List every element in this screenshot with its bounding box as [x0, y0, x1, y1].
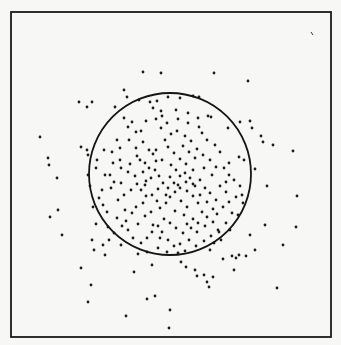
data-point — [239, 121, 242, 124]
data-point — [241, 194, 244, 197]
data-point — [140, 242, 143, 245]
data-point — [157, 225, 160, 228]
data-point — [210, 235, 213, 238]
data-point — [112, 162, 115, 165]
data-point — [206, 216, 209, 219]
data-point — [152, 153, 155, 156]
data-point — [101, 189, 104, 192]
data-point — [222, 206, 225, 209]
data-point — [192, 169, 195, 172]
data-point — [195, 245, 198, 248]
data-point — [251, 127, 254, 130]
data-point — [203, 274, 206, 277]
data-point — [179, 243, 182, 246]
stray-mark — [311, 32, 313, 35]
data-point — [216, 213, 219, 216]
data-point — [194, 157, 197, 160]
data-point — [156, 100, 159, 103]
data-point — [166, 251, 169, 254]
data-point — [159, 237, 162, 240]
data-point — [228, 174, 231, 177]
data-point — [149, 101, 152, 104]
data-point — [102, 244, 105, 247]
data-point — [57, 209, 60, 212]
data-point — [228, 201, 231, 204]
data-point — [186, 206, 189, 209]
data-point — [90, 284, 93, 287]
data-point — [61, 234, 64, 237]
data-point — [92, 206, 95, 209]
data-point — [196, 148, 199, 151]
data-point — [225, 222, 228, 225]
data-point — [238, 254, 241, 257]
data-point — [116, 139, 119, 142]
data-point — [127, 229, 130, 232]
data-point — [157, 247, 160, 250]
data-point — [145, 120, 148, 123]
data-point — [167, 96, 170, 99]
data-point — [188, 239, 191, 242]
data-point — [225, 181, 228, 184]
data-point — [174, 191, 177, 194]
data-point — [145, 180, 148, 183]
data-point — [157, 188, 160, 191]
data-point — [142, 202, 145, 205]
data-point — [144, 162, 147, 165]
data-point — [264, 224, 267, 227]
data-point — [207, 115, 210, 118]
data-point — [214, 144, 217, 147]
data-point — [140, 189, 143, 192]
data-point — [80, 146, 83, 149]
data-point — [131, 212, 134, 215]
data-point — [169, 309, 172, 312]
data-point — [198, 126, 201, 129]
data-point — [194, 185, 197, 188]
data-point — [218, 231, 221, 234]
data-point — [196, 275, 199, 278]
data-point — [102, 204, 105, 207]
data-point — [260, 135, 263, 138]
data-point — [179, 97, 182, 100]
data-point — [245, 255, 248, 258]
data-point — [109, 174, 112, 177]
data-point — [175, 109, 178, 112]
data-point — [206, 201, 209, 204]
data-point — [190, 140, 193, 143]
data-point — [142, 141, 145, 144]
data-point — [169, 196, 172, 199]
data-point — [128, 139, 131, 142]
data-point — [91, 239, 94, 242]
data-point — [114, 106, 117, 109]
data-point — [150, 211, 153, 214]
data-point — [165, 194, 168, 197]
data-point — [231, 212, 234, 215]
data-point — [133, 271, 136, 274]
data-point — [106, 211, 109, 214]
data-point — [161, 231, 164, 234]
data-point — [49, 216, 52, 219]
data-point — [86, 106, 89, 109]
data-point — [180, 200, 183, 203]
data-point — [180, 261, 183, 264]
data-point — [176, 130, 179, 133]
data-point — [182, 232, 185, 235]
data-point — [189, 177, 192, 180]
data-point — [209, 192, 212, 195]
data-point — [235, 257, 238, 260]
data-point — [136, 155, 139, 158]
data-point — [124, 209, 127, 212]
data-point — [152, 224, 155, 227]
boundary-circle — [89, 93, 251, 255]
data-point — [110, 187, 113, 190]
plot-frame — [11, 12, 331, 337]
data-point — [220, 239, 223, 242]
data-point — [137, 253, 140, 256]
data-point — [210, 116, 213, 119]
data-point — [151, 264, 154, 267]
data-point — [139, 159, 142, 162]
data-point — [131, 121, 134, 124]
data-point — [170, 164, 173, 167]
data-point — [199, 194, 202, 197]
data-point — [148, 149, 151, 152]
data-point — [48, 164, 51, 167]
